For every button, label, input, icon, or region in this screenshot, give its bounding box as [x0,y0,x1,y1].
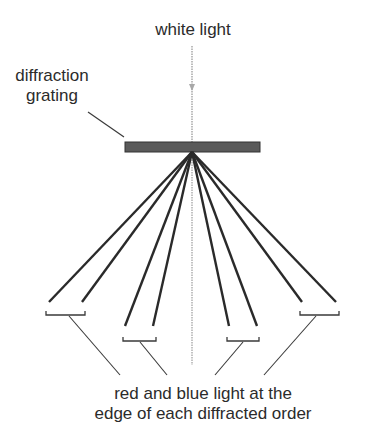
diffraction-diagram [0,0,373,448]
ray-right-outer-red [192,152,336,302]
ray-left-outer-red [49,152,192,302]
bracket-left-inner [123,337,156,341]
diffraction-grating [125,142,260,152]
grating-leader-line [88,112,124,137]
caption-line2: edge of each diffracted order [58,404,348,424]
bracket-right-inner [227,337,259,341]
caption-line1: red and blue light at the [58,384,348,404]
caption-label: red and blue light at the edge of each d… [58,384,348,424]
bracket-right-outer [300,311,339,315]
incident-arrow-icon [189,84,195,91]
leader-left-outer [69,316,120,375]
leader-right-inner [215,342,243,375]
bracket-left-outer [46,311,85,315]
leader-right-outer [264,316,316,375]
leader-left-inner [140,342,167,375]
